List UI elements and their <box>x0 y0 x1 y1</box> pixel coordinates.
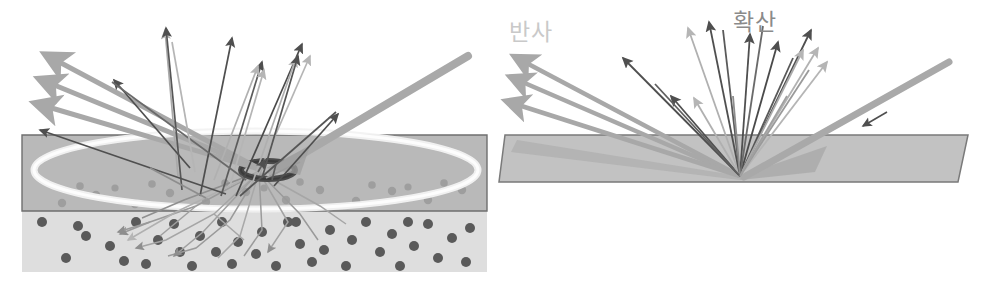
label-diffusion: 확산 <box>733 9 777 35</box>
opaque-material-panel: 반사 확산 <box>497 0 993 285</box>
label-reflection: 반사 <box>509 19 553 45</box>
translucent-material-panel <box>0 0 497 285</box>
figure-root: 반사 확산 <box>0 0 993 285</box>
